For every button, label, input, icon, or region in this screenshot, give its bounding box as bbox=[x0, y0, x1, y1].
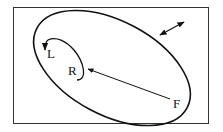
outer-ellipse bbox=[15, 0, 209, 132]
arrow-f-to-r bbox=[88, 69, 170, 99]
label-l: L bbox=[47, 47, 55, 60]
diagram-canvas bbox=[0, 0, 223, 132]
label-f: F bbox=[173, 97, 180, 110]
double-headed-arrow bbox=[160, 22, 184, 35]
label-r: R bbox=[68, 64, 77, 77]
